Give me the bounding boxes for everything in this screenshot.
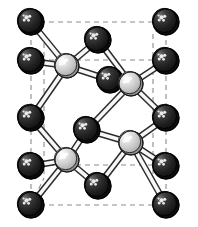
atom-dark-mid-right <box>152 104 179 131</box>
specular-highlight <box>84 123 87 126</box>
specular-highlight <box>22 158 24 160</box>
atom-light-upper-right <box>118 71 143 96</box>
specular-highlight <box>157 158 159 160</box>
atom-dark-top-middle <box>84 26 111 53</box>
specular-highlight <box>22 14 24 16</box>
specular-highlight <box>158 201 161 204</box>
specular-highlight <box>162 115 165 118</box>
atom-dark-mid-left <box>17 104 44 131</box>
specular-highlight <box>65 59 68 62</box>
specular-highlight <box>157 53 159 55</box>
atom-light-upper-left <box>54 53 79 78</box>
specular-highlight <box>95 179 98 182</box>
specular-highlight <box>23 18 26 21</box>
specular-highlight <box>28 111 31 114</box>
specular-highlight <box>28 159 31 162</box>
specular-highlight <box>27 163 30 166</box>
specular-highlight <box>158 18 161 21</box>
specular-highlight <box>22 110 24 112</box>
specular-highlight <box>163 111 166 114</box>
specular-highlight <box>163 54 166 57</box>
specular-highlight <box>123 140 126 143</box>
specular-highlight <box>157 197 159 199</box>
specular-highlight <box>59 157 62 160</box>
atom-dark-upper-left-back <box>17 47 44 74</box>
atom-light-lower-right <box>118 130 143 155</box>
specular-highlight <box>22 53 24 55</box>
specular-highlight <box>106 77 109 80</box>
specular-highlight <box>65 153 68 156</box>
specular-highlight <box>27 202 30 205</box>
specular-highlight <box>23 114 26 117</box>
atom-dark-bottom-middle <box>84 172 111 199</box>
specular-highlight <box>158 114 161 117</box>
atom-dark-upper-right-back <box>152 47 179 74</box>
specular-highlight <box>79 126 82 129</box>
specular-highlight <box>59 63 62 66</box>
specular-highlight <box>27 58 30 61</box>
specular-highlight <box>163 159 166 162</box>
specular-highlight <box>94 37 97 40</box>
specular-highlight <box>102 76 105 79</box>
atom-dark-top-left-front <box>17 8 44 35</box>
specular-highlight <box>78 122 80 124</box>
atom-light-lower-left <box>54 147 79 172</box>
specular-highlight <box>157 110 159 112</box>
atom-dark-inner-lower <box>73 116 100 143</box>
specular-highlight <box>83 127 86 130</box>
specular-highlight <box>129 136 132 139</box>
specular-highlight <box>163 198 166 201</box>
crystal-structure-figure <box>0 0 198 227</box>
crystal-structure-canvas <box>0 0 198 227</box>
specular-highlight <box>90 182 93 185</box>
atom-dark-lower-left-back <box>17 152 44 179</box>
atom-dark-top-right-front <box>152 8 179 35</box>
atom-dark-lower-right-back <box>152 152 179 179</box>
specular-highlight <box>23 57 26 60</box>
specular-highlight <box>162 202 165 205</box>
specular-highlight <box>129 77 132 80</box>
specular-highlight <box>23 162 26 165</box>
specular-highlight <box>28 54 31 57</box>
specular-highlight <box>162 19 165 22</box>
specular-highlight <box>163 15 166 18</box>
specular-highlight <box>162 163 165 166</box>
specular-highlight <box>28 15 31 18</box>
atom-dark-bottom-left-front <box>17 191 44 218</box>
specular-highlight <box>157 14 159 16</box>
specular-highlight <box>89 178 91 180</box>
specular-highlight <box>94 183 97 186</box>
specular-highlight <box>27 19 30 22</box>
specular-highlight <box>107 73 110 76</box>
specular-highlight <box>23 201 26 204</box>
specular-highlight <box>90 36 93 39</box>
atom-dark-bottom-right-front <box>152 191 179 218</box>
specular-highlight <box>27 115 30 118</box>
specular-highlight <box>95 33 98 36</box>
specular-highlight <box>162 58 165 61</box>
specular-highlight <box>28 198 31 201</box>
specular-highlight <box>158 57 161 60</box>
specular-highlight <box>22 197 24 199</box>
specular-highlight <box>101 72 103 74</box>
specular-highlight <box>158 162 161 165</box>
specular-highlight <box>89 32 91 34</box>
specular-highlight <box>123 81 126 84</box>
